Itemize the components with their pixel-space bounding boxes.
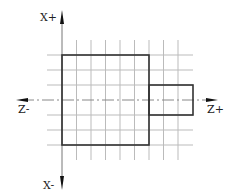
z-negative-label: Z-: [18, 103, 30, 116]
x-negative-label: X-: [43, 179, 54, 192]
coordinate-diagram: X+ X- Z- Z+: [0, 0, 235, 195]
x-negative-arrow-icon: [60, 176, 64, 190]
z-positive-arrow-icon: [206, 98, 218, 102]
z-negative-arrow-icon: [16, 98, 28, 102]
x-positive-arrow-icon: [60, 10, 64, 24]
x-positive-label: X+: [40, 11, 57, 24]
z-positive-label: Z+: [207, 103, 224, 116]
